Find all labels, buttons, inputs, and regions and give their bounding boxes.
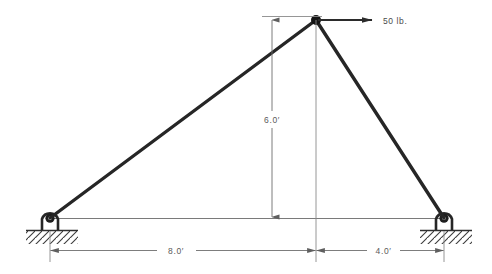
left-span-dimension: 8.0′ xyxy=(51,246,316,256)
load-label: 50 lb. xyxy=(383,16,407,26)
truss-figure: 50 lb. 6.0′ 8.0′ xyxy=(0,0,492,274)
truss-members xyxy=(50,20,444,218)
right-span-dim-label: 4.0′ xyxy=(376,246,392,256)
right-member xyxy=(316,20,444,218)
height-dim-label: 6.0′ xyxy=(264,115,280,125)
right-ground-hatch xyxy=(420,231,472,244)
left-span-dim-label: 8.0′ xyxy=(168,246,184,256)
right-span-dimension: 4.0′ xyxy=(317,246,444,256)
right-pin-support xyxy=(420,213,472,244)
height-dimension: 6.0′ xyxy=(262,17,322,218)
applied-load: 50 lb. xyxy=(318,16,407,26)
truss-diagram-canvas: 50 lb. 6.0′ 8.0′ xyxy=(0,0,492,274)
left-ground-hatch xyxy=(26,231,78,244)
